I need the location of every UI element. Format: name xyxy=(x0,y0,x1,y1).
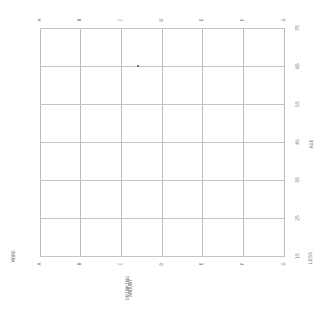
less-label: LESS xyxy=(307,252,313,264)
data-point xyxy=(137,65,139,67)
age-tick-75: 75 xyxy=(294,25,300,31)
drinking-amount-line2: AMOUNT xyxy=(127,279,133,297)
grid-line-35 xyxy=(40,180,285,181)
age-tick-25: 25 xyxy=(294,215,300,221)
bottom-label-b: B xyxy=(76,262,82,265)
grid-line-15 xyxy=(40,256,285,257)
bottom-label-e: E xyxy=(198,262,204,265)
grid-line-25 xyxy=(40,218,285,219)
bottom-label-g: G xyxy=(280,262,286,265)
top-label-e: E xyxy=(198,18,204,21)
top-label-c: C xyxy=(117,18,123,21)
age-tick-45: 45 xyxy=(294,139,300,145)
bottom-label-a: A xyxy=(36,262,42,265)
age-tick-15: 15 xyxy=(294,253,300,259)
age-tick-65: 65 xyxy=(294,63,300,69)
top-label-a: A xyxy=(36,18,42,21)
bottom-label-f: F xyxy=(239,262,245,265)
top-label-b: B xyxy=(76,18,82,21)
grid-line-65 xyxy=(40,66,285,67)
bottom-label-d: D xyxy=(158,262,164,265)
grid-line-55 xyxy=(40,104,285,105)
top-label-g: G xyxy=(280,18,286,21)
top-label-f: F xyxy=(239,18,245,21)
top-label-d: D xyxy=(158,18,164,21)
age-tick-35: 35 xyxy=(294,177,300,183)
age-axis-title: AGE xyxy=(308,139,314,148)
grid-line-75 xyxy=(40,28,285,29)
age-tick-55: 55 xyxy=(294,101,300,107)
more-label: MORE xyxy=(10,250,16,262)
grid-line-45 xyxy=(40,142,285,143)
bottom-label-c: C xyxy=(117,262,123,265)
